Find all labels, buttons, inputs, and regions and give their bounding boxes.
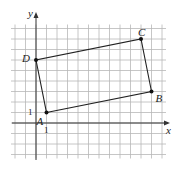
grid-lines <box>11 25 166 159</box>
x-tick-label: 1 <box>44 125 49 135</box>
vertex-a-dot <box>45 111 49 115</box>
coordinate-diagram: x y 1 1 ABCD <box>0 0 177 173</box>
vertex-d-label: D <box>21 52 30 64</box>
vertex-b-label: B <box>156 92 163 104</box>
vertex-a-label: A <box>36 115 44 127</box>
vertex-c-label: C <box>138 26 146 38</box>
vertex-d-dot <box>34 58 38 62</box>
y-tick-label: 1 <box>28 107 33 117</box>
y-axis-label: y <box>27 7 33 19</box>
quadrilateral-abcd <box>36 39 152 113</box>
y-axis-arrow-icon <box>34 12 39 18</box>
x-axis-label: x <box>165 124 171 136</box>
vertex-b-dot <box>150 90 154 94</box>
